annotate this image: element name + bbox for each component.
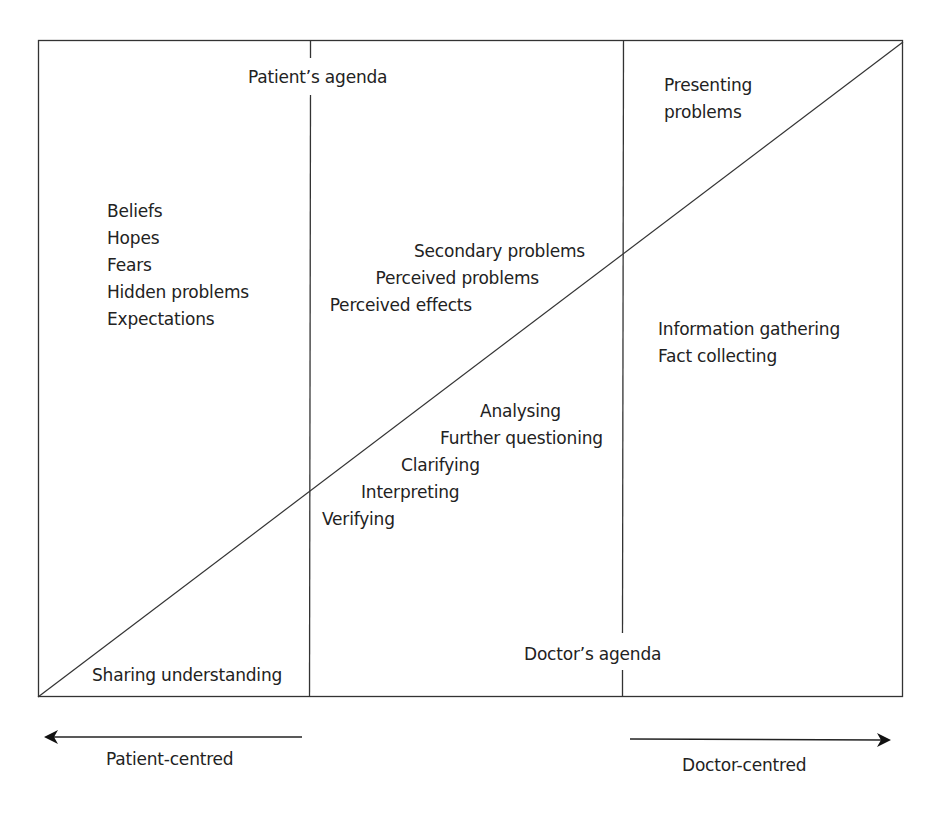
process-interpreting: Interpreting [361,479,459,506]
doctor-tasks-list: Information gathering Fact collecting [658,316,840,370]
perceived-problems-list: Secondary problems Perceived problems Pe… [330,238,585,319]
arrow-right-icon [630,733,891,747]
list-item: Fact collecting [658,343,840,370]
sharing-understanding-label: Sharing understanding [92,662,282,689]
process-verifying: Verifying [322,506,395,533]
diagram-lines [0,0,937,814]
process-further-questioning: Further questioning [440,425,603,452]
presenting-problems-label: Presenting problems [664,72,752,126]
divider-right [623,41,624,633]
list-item: Information gathering [658,316,840,343]
doctor-centred-label: Doctor-centred [682,752,806,779]
patient-concerns-list: Beliefs Hopes Fears Hidden problems Expe… [107,198,249,333]
list-item: Secondary problems [330,238,585,265]
list-item: Hopes [107,225,249,252]
list-item: Perceived problems [330,265,539,292]
patient-agenda-heading: Patient’s agenda [248,64,387,91]
process-clarifying: Clarifying [401,452,480,479]
list-item: Fears [107,252,249,279]
arrow-left-icon [44,730,302,744]
presenting-line-1: Presenting [664,72,752,99]
patient-centred-label: Patient-centred [106,746,233,773]
list-item: Perceived effects [330,292,472,319]
list-item: Hidden problems [107,279,249,306]
list-item: Expectations [107,306,249,333]
doctor-agenda-heading: Doctor’s agenda [524,641,661,668]
list-item: Beliefs [107,198,249,225]
divider-left [310,95,311,697]
presenting-line-2: problems [664,99,752,126]
process-analysing: Analysing [480,398,561,425]
